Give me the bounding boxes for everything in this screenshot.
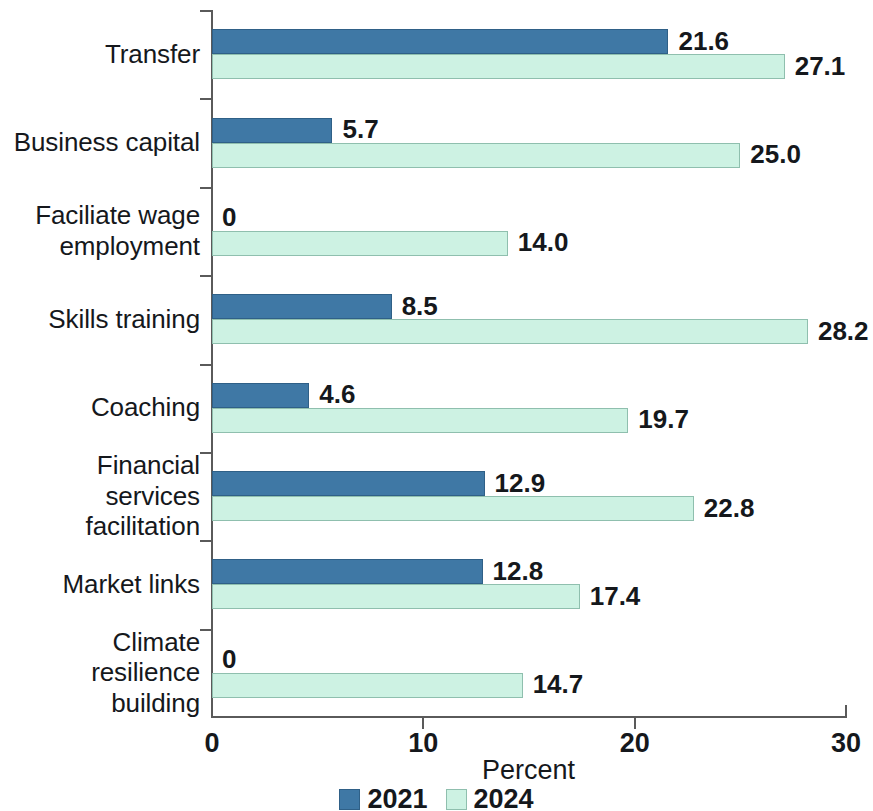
bar-row: 25.0 — [212, 143, 846, 168]
bar-group: 014.7 — [212, 648, 846, 698]
y-axis-tick — [200, 452, 212, 454]
bar-value-label: 25.0 — [750, 139, 801, 170]
bar-row: 8.5 — [212, 294, 846, 319]
category-label: Coaching — [0, 392, 200, 423]
bar-group: 8.528.2 — [212, 294, 846, 344]
plot-area: 21.627.15.725.0014.08.528.24.619.712.922… — [212, 10, 846, 717]
y-axis-tick — [200, 364, 212, 366]
bar-row: 21.6 — [212, 29, 846, 54]
bar-chart: TransferBusiness capitalFaciliate wage e… — [0, 0, 873, 811]
bar-value-label: 28.2 — [818, 316, 869, 347]
bar-value-label: 4.6 — [319, 379, 355, 410]
y-axis-tick — [200, 540, 212, 542]
category-label: Business capital — [0, 127, 200, 158]
y-axis-tick — [200, 187, 212, 189]
bar-row: 22.8 — [212, 496, 846, 521]
bar-group: 4.619.7 — [212, 383, 846, 433]
bar-2021 — [212, 118, 332, 143]
bar-2021 — [212, 29, 668, 54]
legend-label: 2021 — [367, 786, 427, 811]
category-axis-labels: TransferBusiness capitalFaciliate wage e… — [0, 10, 200, 717]
bar-row: 27.1 — [212, 54, 846, 79]
bar-row: 19.7 — [212, 408, 846, 433]
category-label: Financial services facilitation — [0, 450, 200, 542]
y-axis-tick — [200, 629, 212, 631]
bar-value-label: 19.7 — [638, 404, 689, 435]
legend-label: 2024 — [474, 786, 534, 811]
bar-2024 — [212, 231, 508, 256]
bar-group: 014.0 — [212, 206, 846, 256]
bar-2024 — [212, 408, 628, 433]
bar-2024 — [212, 673, 523, 698]
bar-value-label: 8.5 — [402, 291, 438, 322]
bar-2021 — [212, 471, 485, 496]
y-axis-tick — [200, 98, 212, 100]
x-axis-tick — [845, 705, 847, 718]
bar-row: 0 — [212, 648, 846, 673]
bar-value-label: 22.8 — [704, 492, 755, 523]
category-label: Transfer — [0, 39, 200, 70]
y-axis-tick — [200, 10, 212, 12]
bar-group: 5.725.0 — [212, 118, 846, 168]
legend-swatch-icon — [339, 789, 360, 810]
bar-value-label: 17.4 — [590, 581, 641, 612]
category-label: Faciliate wage employment — [0, 200, 200, 261]
bar-2024 — [212, 143, 740, 168]
bar-2021 — [212, 559, 483, 584]
bar-group: 21.627.1 — [212, 29, 846, 79]
bar-value-label: 21.6 — [678, 26, 729, 57]
x-axis-tick — [211, 705, 213, 718]
bar-value-label: 0 — [222, 644, 236, 675]
bar-2024 — [212, 54, 785, 79]
bar-2024 — [212, 319, 808, 344]
bar-row: 28.2 — [212, 319, 846, 344]
bar-row: 4.6 — [212, 383, 846, 408]
y-axis-tick — [200, 275, 212, 277]
bar-value-label: 14.7 — [533, 669, 584, 700]
category-label: Climate resilience building — [0, 627, 200, 719]
bar-row: 17.4 — [212, 584, 846, 609]
bar-2021 — [212, 294, 392, 319]
bar-value-label: 5.7 — [342, 114, 378, 145]
bar-value-label: 12.9 — [495, 467, 546, 498]
category-label: Market links — [0, 569, 200, 600]
bar-row: 14.0 — [212, 231, 846, 256]
bar-row: 14.7 — [212, 673, 846, 698]
legend-item-2024: 2024 — [446, 786, 534, 811]
bar-value-label: 14.0 — [518, 227, 569, 258]
bar-row: 12.8 — [212, 559, 846, 584]
bar-value-label: 0 — [222, 202, 236, 233]
legend-item-2021: 2021 — [339, 786, 427, 811]
category-label: Skills training — [0, 304, 200, 335]
bar-2021 — [212, 383, 309, 408]
chart-legend: 20212024 — [0, 786, 873, 811]
x-axis-title: Percent — [211, 755, 846, 786]
bar-group: 12.817.4 — [212, 559, 846, 609]
bar-group: 12.922.8 — [212, 471, 846, 521]
bar-2024 — [212, 496, 694, 521]
bar-2024 — [212, 584, 580, 609]
x-axis-line — [211, 716, 846, 718]
bar-value-label: 12.8 — [493, 556, 544, 587]
bar-value-label: 27.1 — [795, 51, 846, 82]
legend-swatch-icon — [446, 789, 467, 810]
